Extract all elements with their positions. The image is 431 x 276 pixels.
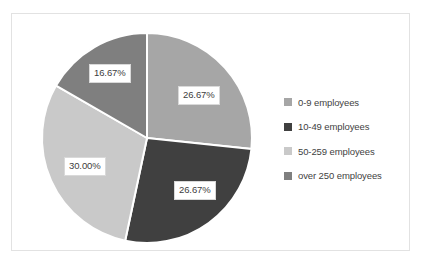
legend-item-10-49-employees[interactable]: 10-49 employees [284, 115, 406, 140]
chart-frame: 26.67% 26.67% 30.00% 16.67% 0-9 employee… [11, 13, 410, 251]
pie-chart-graphic [39, 30, 255, 246]
legend-item-label: 10-49 employees [298, 122, 369, 132]
legend-swatch-icon [284, 172, 292, 180]
pie-slice-group [42, 33, 252, 243]
legend-item-0-9-employees[interactable]: 0-9 employees [284, 90, 406, 115]
slice-data-label: 30.00% [64, 157, 106, 176]
pie-chart-plot-area: 26.67% 26.67% 30.00% 16.67% 0-9 employee… [12, 14, 409, 250]
slice-data-label: 26.67% [178, 86, 220, 105]
legend-item-label: over 250 employees [298, 171, 382, 181]
slice-data-label: 26.67% [174, 181, 216, 200]
legend-item-over-250-employees[interactable]: over 250 employees [284, 164, 406, 189]
legend-swatch-icon [284, 98, 292, 106]
legend-item-label: 0-9 employees [298, 98, 359, 108]
legend-swatch-icon [284, 123, 292, 131]
legend-item-label: 50-259 employees [298, 147, 375, 157]
legend-item-50-259-employees[interactable]: 50-259 employees [284, 139, 406, 164]
slice-data-label: 16.67% [89, 64, 131, 83]
chart-legend: 0-9 employees 10-49 employees 50-259 emp… [284, 90, 406, 188]
legend-swatch-icon [284, 147, 292, 155]
